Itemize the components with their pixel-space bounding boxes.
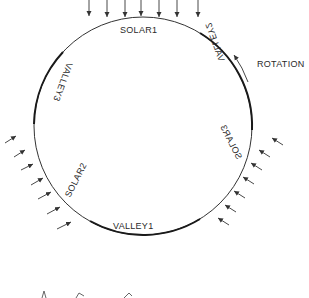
partial-figure-bottom: [42, 291, 132, 298]
sun-rays-top: [89, 0, 198, 17]
valley2-arc: [200, 33, 252, 130]
sun-rays-lower-right: [218, 138, 283, 225]
label-valley3: VALLEY3: [51, 61, 74, 102]
sun-rays-lower-left: [5, 136, 71, 229]
rotation-diagram: SOLAR1 ROTATION VALLEY1 VALLEY3 VALLEY2 …: [0, 0, 309, 298]
label-valley2: VALLEY2: [203, 21, 226, 62]
label-rotation: ROTATION: [257, 59, 305, 69]
label-solar1: SOLAR1: [120, 25, 157, 35]
label-solar2: SOLAR2: [63, 161, 89, 199]
label-solar3: SOLAR3: [218, 123, 244, 161]
label-valley1: VALLEY1: [113, 221, 153, 231]
